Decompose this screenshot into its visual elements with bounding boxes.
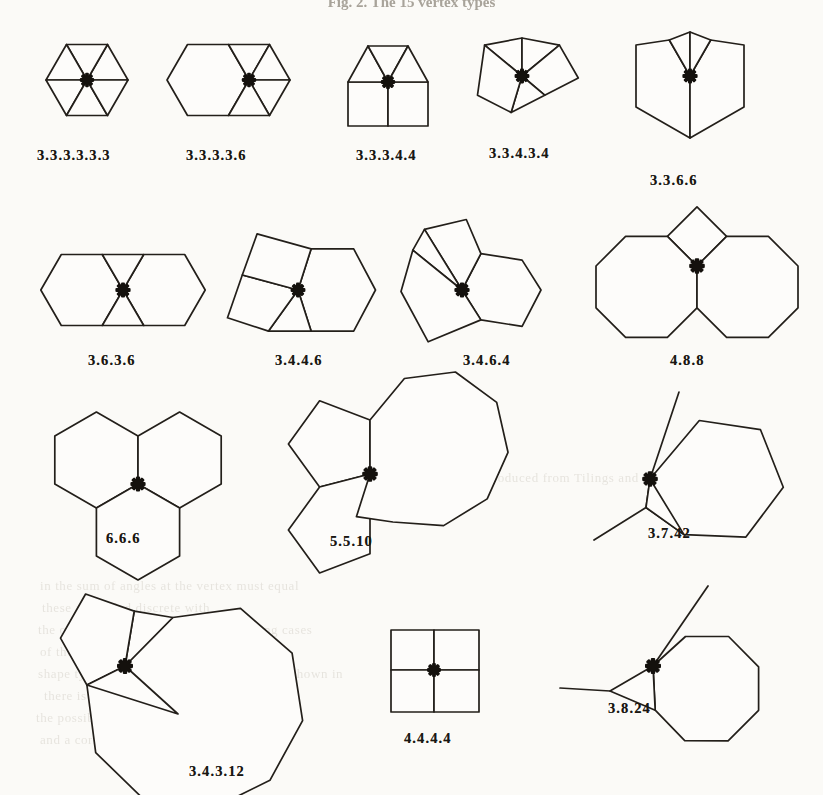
vertex-figure-3.3.4.3.4 — [460, 30, 590, 135]
tiling-svg-3.3.3.3.3.3 — [40, 32, 140, 132]
polygon-group — [228, 234, 376, 331]
polygon-group — [401, 220, 541, 342]
tiling-svg-3.6.3.6 — [28, 240, 218, 345]
vertex-figure-3.4.4.6 — [222, 228, 412, 353]
tiling-svg-3.7.42 — [600, 395, 810, 540]
polygon-group — [594, 392, 783, 540]
polygon-group — [288, 372, 508, 573]
tiling-svg-3.4.4.6 — [222, 228, 412, 353]
vertex-star-marker — [381, 75, 395, 89]
pentagon — [288, 401, 370, 487]
vertex-figure-3.7.42 — [600, 395, 810, 540]
caption-3.3.6.6: 3.3.6.6 — [650, 172, 698, 189]
tiling-svg-3.3.3.4.4 — [330, 32, 450, 137]
vertex-star-marker — [682, 68, 697, 83]
polygon-group — [61, 594, 303, 795]
square — [434, 630, 479, 670]
vertex-star-marker — [515, 69, 530, 84]
caption-3.3.3.3.3.3: 3.3.3.3.3.3 — [37, 147, 111, 164]
tiling-svg-6.6.6 — [48, 392, 228, 542]
vertex-figure-3.3.3.3.6 — [160, 32, 300, 132]
vertex-figure-4.4.4.4 — [378, 608, 498, 718]
vertex-figure-3.4.6.4 — [398, 222, 588, 367]
caption-3.3.3.4.4: 3.3.3.4.4 — [356, 147, 417, 164]
vertex-star-marker — [130, 476, 145, 491]
vertex-figure-3.3.3.4.4 — [330, 32, 450, 137]
caption-5.5.10: 5.5.10 — [330, 533, 373, 550]
tiling-svg-5.5.10 — [288, 392, 528, 542]
tiling-svg-4.4.4.4 — [378, 608, 498, 718]
tiling-svg-3.4.3.12 — [48, 568, 328, 768]
tiling-svg-3.3.6.6 — [610, 28, 770, 158]
pentagon — [288, 474, 370, 573]
vertex-star-marker — [80, 73, 94, 87]
octagon — [697, 236, 798, 337]
decagon — [356, 372, 508, 526]
tiling-svg-3.8.24 — [590, 588, 820, 768]
vertex-figure-3.3.6.6 — [610, 28, 770, 158]
vertex-star-marker — [242, 73, 256, 87]
polygon-group — [167, 45, 290, 116]
square — [391, 630, 434, 670]
octagon — [596, 236, 697, 337]
polygon-group — [560, 586, 759, 741]
caption-3.7.42: 3.7.42 — [648, 525, 691, 542]
figure-page: Reproduced from Tilings and Patternsin t… — [0, 0, 823, 795]
caption-3.8.24: 3.8.24 — [608, 700, 651, 717]
vertex-star-marker — [454, 282, 469, 297]
square — [388, 82, 428, 126]
vertex-star-marker — [117, 658, 133, 674]
square — [348, 82, 388, 126]
square — [434, 670, 479, 712]
vertex-star-marker — [642, 471, 658, 487]
vertex-star-marker — [689, 258, 705, 274]
caption-3.3.4.3.4: 3.3.4.3.4 — [489, 145, 550, 162]
tiling-svg-3.3.3.3.6 — [160, 32, 300, 132]
caption-3.4.3.12: 3.4.3.12 — [189, 763, 245, 780]
vertex-figure-3.8.24 — [590, 588, 820, 768]
vertex-figure-3.3.3.3.3.3 — [40, 32, 140, 132]
vertex-star-marker — [291, 283, 306, 298]
vertex-star-marker — [115, 282, 130, 297]
polygon-group — [55, 412, 221, 580]
caption-4.8.8: 4.8.8 — [670, 352, 705, 369]
hexagon — [298, 249, 376, 331]
polygon-24-edge — [560, 688, 610, 691]
vertex-figure-5.5.10 — [288, 392, 528, 542]
tiling-svg-4.8.8 — [582, 210, 812, 360]
vertex-figure-6.6.6 — [48, 392, 228, 542]
vertex-figure-3.6.3.6 — [28, 240, 218, 345]
square — [391, 670, 434, 712]
vertex-star-marker — [362, 466, 378, 482]
vertex-figure-4.8.8 — [582, 210, 812, 360]
polygon-42-edge — [594, 508, 646, 541]
tiling-svg-3.3.4.3.4 — [460, 30, 590, 135]
vertex-figure-3.4.3.12 — [48, 568, 328, 768]
caption-3.4.4.6: 3.4.4.6 — [275, 352, 323, 369]
vertex-star-marker — [427, 663, 441, 677]
polygon-group — [636, 32, 744, 138]
caption-3.6.3.6: 3.6.3.6 — [88, 352, 136, 369]
caption-3.3.3.3.6: 3.3.3.3.6 — [186, 147, 247, 164]
tiling-svg-3.4.6.4 — [398, 222, 588, 367]
figure-title: Fig. 2. The 15 vertex types — [0, 0, 823, 11]
caption-3.4.6.4: 3.4.6.4 — [463, 352, 511, 369]
caption-4.4.4.4: 4.4.4.4 — [404, 730, 452, 747]
caption-6.6.6: 6.6.6 — [106, 530, 141, 547]
octagon — [653, 637, 759, 741]
vertex-star-marker — [645, 658, 661, 674]
